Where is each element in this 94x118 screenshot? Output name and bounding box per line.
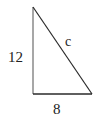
horizontal-leg-label: 8: [53, 101, 61, 117]
hypotenuse-label: c: [65, 34, 71, 49]
hypotenuse: [33, 7, 92, 94]
vertical-leg-label: 12: [8, 49, 23, 65]
right-triangle-diagram: 12 8 c: [0, 0, 94, 118]
